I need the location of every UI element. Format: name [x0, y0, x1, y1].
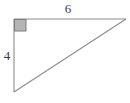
vertical-leg-label: 4 [0, 49, 14, 62]
hypotenuse-line [14, 19, 126, 92]
horizontal-leg-label: 6 [54, 2, 82, 15]
right-angle-marker-icon [15, 20, 27, 32]
right-triangle-figure: 6 4 [0, 0, 130, 103]
